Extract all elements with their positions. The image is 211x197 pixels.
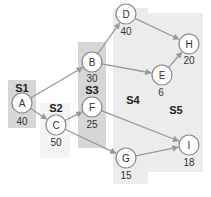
stage-label-s5: S5 — [169, 104, 182, 116]
node-label: I — [188, 140, 191, 151]
stages-layer — [8, 8, 203, 184]
node-label: H — [185, 39, 192, 50]
node-value: 25 — [86, 119, 98, 130]
node-label: A — [19, 98, 26, 109]
node-value: 20 — [183, 55, 195, 66]
node-value: 6 — [158, 87, 164, 98]
node-value: 15 — [120, 170, 132, 181]
network-diagram: A40C50B30F25D40G15E6H20I18 S1S2S3S4S5 — [0, 0, 211, 197]
node-value: 30 — [86, 73, 98, 84]
stage-label-s2: S2 — [49, 102, 62, 114]
stage-label-s1: S1 — [15, 82, 28, 94]
edge-a-b — [31, 68, 83, 98]
node-label: C — [52, 120, 59, 131]
node-value: 18 — [183, 157, 195, 168]
node-label: E — [159, 70, 166, 81]
node-label: B — [89, 57, 96, 68]
node-value: 40 — [120, 26, 132, 37]
stage-label-s4: S4 — [126, 94, 140, 106]
node-label: D — [122, 9, 129, 20]
node-label: G — [122, 153, 130, 164]
node-value: 50 — [50, 137, 62, 148]
node-label: F — [89, 102, 95, 113]
node-value: 40 — [16, 116, 28, 127]
stage-label-s3: S3 — [85, 84, 98, 96]
